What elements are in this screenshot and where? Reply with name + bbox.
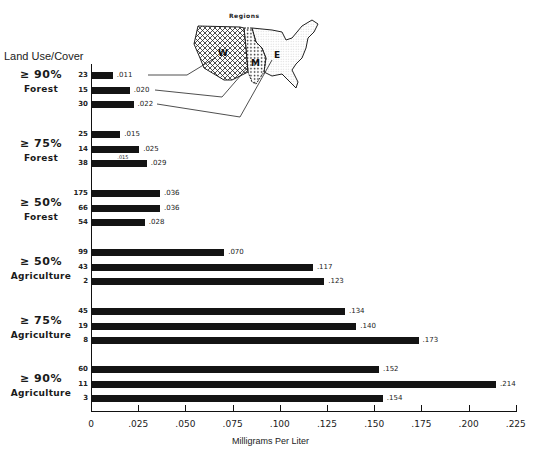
bar-e bbox=[92, 337, 419, 344]
value-label: .134 bbox=[349, 307, 365, 315]
value-label: .117 bbox=[317, 263, 333, 271]
x-tick-label: .125 bbox=[307, 419, 347, 429]
x-tick-label: .100 bbox=[260, 419, 300, 429]
value-label: .015 bbox=[124, 130, 140, 138]
value-label: .025 bbox=[143, 145, 159, 153]
bar-m bbox=[92, 87, 130, 94]
sample-count-label: 30 bbox=[64, 100, 88, 108]
sample-count-label: 2 bbox=[64, 277, 88, 285]
value-label: .214 bbox=[500, 380, 516, 388]
sample-count-label: 60 bbox=[64, 365, 88, 373]
x-axis bbox=[91, 411, 517, 412]
value-label: .154 bbox=[387, 394, 403, 402]
x-tick bbox=[374, 405, 375, 411]
bar-w bbox=[92, 249, 224, 256]
x-tick-label: .175 bbox=[401, 419, 441, 429]
x-tick-label: .050 bbox=[165, 419, 205, 429]
sample-count-label: 19 bbox=[64, 322, 88, 330]
bar-w bbox=[92, 308, 345, 315]
bar-m bbox=[92, 146, 139, 153]
value-label: .140 bbox=[360, 322, 376, 330]
x-tick-label: .150 bbox=[354, 419, 394, 429]
x-axis-label: Milligrams Per Liter bbox=[232, 436, 309, 446]
bar-m bbox=[92, 264, 313, 271]
sample-count-label: 23 bbox=[64, 71, 88, 79]
x-tick bbox=[327, 405, 328, 411]
sample-count-label: 15 bbox=[64, 86, 88, 94]
bar-m bbox=[92, 323, 356, 330]
x-tick-label: .200 bbox=[449, 419, 489, 429]
sample-count-label: 14 bbox=[64, 145, 88, 153]
value-label: .022 bbox=[138, 100, 154, 108]
x-tick bbox=[280, 405, 281, 411]
bar-e bbox=[92, 160, 147, 167]
value-label: .173 bbox=[423, 336, 439, 344]
sample-count-label: 66 bbox=[64, 204, 88, 212]
value-label: .036 bbox=[164, 189, 180, 197]
value-label: .152 bbox=[383, 365, 399, 373]
x-tick-label: 0 bbox=[71, 419, 111, 429]
bar-e bbox=[92, 395, 383, 402]
sample-count-label: 8 bbox=[64, 336, 88, 344]
bar-w bbox=[92, 72, 113, 79]
x-tick bbox=[233, 405, 234, 411]
sample-count-label: 54 bbox=[64, 218, 88, 226]
sample-count-label: 43 bbox=[64, 263, 88, 271]
bar-w bbox=[92, 190, 160, 197]
x-tick-label: .225 bbox=[496, 419, 536, 429]
x-tick-label: .075 bbox=[213, 419, 253, 429]
bar-e bbox=[92, 278, 324, 285]
x-tick bbox=[421, 405, 422, 411]
sample-count-label: 45 bbox=[64, 307, 88, 315]
value-label: .020 bbox=[134, 86, 150, 94]
x-tick-label: .025 bbox=[118, 419, 158, 429]
value-label: .029 bbox=[151, 159, 167, 167]
sample-count-label: 99 bbox=[64, 248, 88, 256]
bar-e bbox=[92, 101, 134, 108]
value-label: .036 bbox=[164, 204, 180, 212]
bar-annotation: .015 bbox=[117, 154, 128, 160]
bar-w bbox=[92, 131, 120, 138]
x-tick bbox=[516, 405, 517, 411]
x-tick bbox=[469, 405, 470, 411]
sample-count-label: 175 bbox=[64, 189, 88, 197]
x-tick bbox=[138, 405, 139, 411]
bar-w bbox=[92, 366, 379, 373]
sample-count-label: 3 bbox=[64, 394, 88, 402]
y-axis bbox=[91, 64, 92, 412]
value-label: .028 bbox=[149, 218, 165, 226]
value-label: .070 bbox=[228, 248, 244, 256]
bar-m bbox=[92, 205, 160, 212]
bar-e bbox=[92, 219, 145, 226]
value-label: .123 bbox=[328, 277, 344, 285]
sample-count-label: 11 bbox=[64, 380, 88, 388]
value-label: .011 bbox=[117, 71, 133, 79]
sample-count-label: 38 bbox=[64, 159, 88, 167]
sample-count-label: 25 bbox=[64, 130, 88, 138]
x-tick bbox=[185, 405, 186, 411]
bar-m bbox=[92, 381, 496, 388]
